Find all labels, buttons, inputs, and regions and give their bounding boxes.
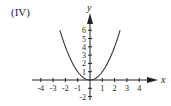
x-axis-arrow-icon: [147, 77, 158, 83]
y-tick-label: 4: [82, 43, 86, 52]
y-tick-label: 2: [82, 59, 86, 68]
y-tick-label: 1: [82, 68, 86, 77]
x-tick-label: -4: [37, 84, 44, 93]
y-axis-arrow-icon: [87, 13, 93, 24]
x-tick-label: 1: [100, 84, 104, 93]
chart: xy -4-3-2-11234-2123456: [0, 0, 171, 106]
x-tick-label: 2: [113, 84, 117, 93]
y-tick-label: -2: [79, 93, 86, 102]
x-tick-label: 3: [125, 84, 129, 93]
x-tick-label: 4: [137, 84, 141, 93]
x-tick-label: -3: [50, 84, 57, 93]
x-axis-label: x: [160, 74, 166, 85]
y-tick-label: 5: [82, 35, 86, 44]
x-tick-label: -2: [62, 84, 69, 93]
y-tick-label: 6: [82, 26, 86, 35]
tick-labels: -4-3-2-11234-2123456: [37, 26, 141, 101]
y-axis-label: y: [86, 2, 92, 13]
y-tick-label: 3: [82, 51, 86, 60]
